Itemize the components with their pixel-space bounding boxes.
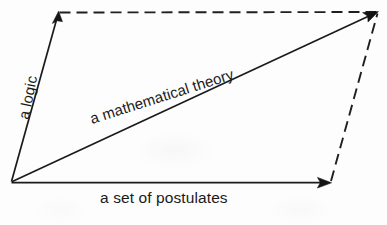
parallelogram-diagram: a logic a mathematical theory a set of p… — [0, 0, 387, 225]
dashed-right-edge — [331, 14, 378, 182]
label-a-logic: a logic — [15, 74, 41, 121]
figure-container: a logic a mathematical theory a set of p… — [0, 0, 387, 225]
label-a-set-of-postulates: a set of postulates — [100, 189, 228, 206]
dashed-top-edge — [60, 12, 377, 13]
theory-resultant-line — [12, 16, 369, 182]
label-a-mathematical-theory: a mathematical theory — [88, 65, 236, 127]
